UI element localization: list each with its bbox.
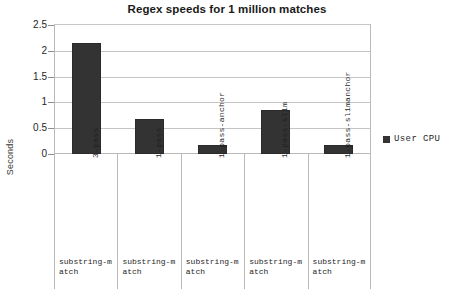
category-label: substring-match — [118, 257, 180, 277]
bar-slot — [118, 25, 181, 154]
series-point-label: 1-pass-anchor — [217, 92, 226, 158]
legend-swatch-icon — [383, 136, 390, 143]
legend-label: User CPU — [394, 134, 440, 144]
category-cell: substring-match — [308, 154, 371, 289]
y-tick-label: 1.5 — [0, 72, 47, 82]
series-point-label: 1-pass-slimanchor — [343, 71, 352, 158]
bar-slot — [181, 25, 244, 154]
bar-chart: Regex speeds for 1 million matches Secon… — [0, 0, 454, 303]
category-axis-table: substring-matchsubstring-matchsubstring-… — [54, 154, 371, 289]
legend: User CPU — [383, 134, 440, 144]
category-label: substring-match — [245, 257, 307, 277]
y-tick-label: 2 — [0, 46, 47, 56]
category-cell: substring-match — [244, 154, 307, 289]
y-tick-label: 0 — [0, 149, 47, 159]
category-cell: substring-match — [117, 154, 180, 289]
bars-layer — [55, 25, 370, 154]
category-label: substring-match — [55, 257, 117, 277]
y-tick-label: 1 — [0, 97, 47, 107]
category-label: substring-match — [182, 257, 244, 277]
y-tick-label: 2.5 — [0, 20, 47, 30]
chart-title: Regex speeds for 1 million matches — [0, 3, 454, 15]
category-cell: substring-match — [54, 154, 117, 289]
bar-slot — [244, 25, 307, 154]
series-point-label: 1-pass-slim — [280, 102, 289, 158]
category-cell: substring-match — [181, 154, 244, 289]
y-tick-label: 0.5 — [0, 123, 47, 133]
category-label: substring-match — [309, 257, 370, 277]
bar-slot — [55, 25, 118, 154]
bar-slot — [307, 25, 370, 154]
